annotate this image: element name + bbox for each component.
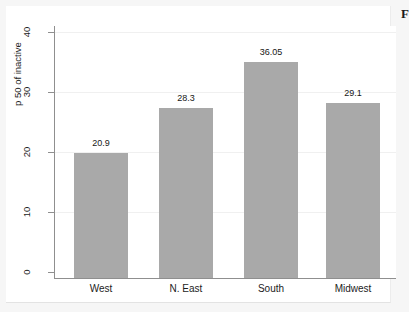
bar-midwest[interactable]: [326, 103, 380, 278]
x-axis-line: [54, 278, 396, 279]
bar-value-west: 20.9: [74, 138, 128, 149]
y-tick-label-0: 0: [21, 251, 33, 293]
chart-canvas: 20.9 28.3 36.05 29.1 40 30 20 10 0 p 50 …: [6, 6, 391, 303]
bar-value-midwest: 29.1: [326, 88, 380, 99]
y-tick-mark-0: [48, 272, 54, 273]
figure-root: 20.9 28.3 36.05 29.1 40 30 20 10 0 p 50 …: [0, 0, 409, 312]
x-category-label-west: West: [74, 283, 128, 295]
bar-value-south: 36.05: [244, 47, 298, 58]
y-tick-mark-10: [48, 212, 54, 213]
y-tick-mark-40: [48, 32, 54, 33]
y-tick-mark-30: [48, 92, 54, 93]
y-tick-label-20: 20: [21, 131, 33, 173]
x-category-label-n-east: N. East: [159, 283, 213, 295]
gridline-40: [54, 32, 396, 33]
x-category-label-south: South: [244, 283, 298, 295]
bar-value-n-east: 28.3: [159, 93, 213, 104]
x-category-label-midwest: Midwest: [326, 283, 380, 295]
plot-region: 20.9 28.3 36.05 29.1: [54, 26, 396, 278]
y-tick-label-10: 10: [21, 191, 33, 233]
y-axis-line: [54, 26, 55, 279]
bar-west[interactable]: [74, 153, 128, 278]
y-tick-mark-20: [48, 152, 54, 153]
bar-south[interactable]: [244, 62, 298, 278]
y-axis-title: p 50 of inactive: [12, 42, 24, 106]
figure-caption-fragment: F: [401, 6, 409, 22]
bar-n-east[interactable]: [159, 108, 213, 278]
